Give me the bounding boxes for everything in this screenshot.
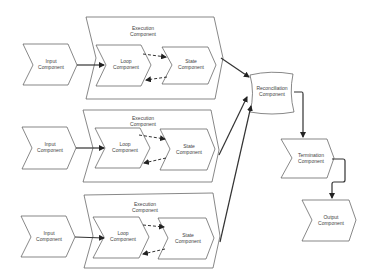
termination-to-output-arrow	[332, 159, 345, 198]
svg-text:Component: Component	[110, 236, 136, 242]
architecture-diagram: Input Component Execution Component Loop…	[0, 0, 371, 280]
svg-text:Component: Component	[38, 64, 64, 70]
reconciliation-component: Reconciliation Component	[250, 72, 294, 114]
pipeline-1: Input Component Execution Component Loop…	[23, 17, 223, 99]
execution-3-to-reconciliation-arrow	[220, 106, 251, 242]
svg-text:Component: Component	[132, 207, 158, 213]
svg-text:Component: Component	[176, 149, 202, 155]
input-component-1: Input Component	[23, 44, 77, 85]
execution-2-to-reconciliation-arrow	[219, 97, 247, 155]
termination-component: Termination Component	[281, 139, 334, 178]
input-component-2: Input Component	[22, 127, 76, 169]
svg-text:Component: Component	[130, 121, 156, 127]
svg-text:Component: Component	[112, 147, 138, 153]
svg-text:Component: Component	[130, 31, 156, 37]
pipeline-2: Input Component Execution Component Loop…	[22, 110, 219, 182]
svg-text:Component: Component	[318, 220, 344, 226]
svg-text:Component: Component	[178, 64, 204, 70]
input-component-3: Input Component	[21, 216, 75, 257]
execution-1-to-reconciliation-arrow	[221, 58, 249, 77]
pipeline-3: Input Component Execution Component Loop…	[21, 193, 220, 268]
svg-text:Component: Component	[113, 64, 139, 70]
svg-text:Component: Component	[298, 158, 324, 164]
output-component: Output Component	[302, 200, 356, 241]
reconciliation-to-termination-arrow	[294, 92, 303, 137]
svg-text:Component: Component	[175, 238, 201, 244]
svg-text:Component: Component	[259, 91, 285, 97]
svg-text:Component: Component	[36, 236, 62, 242]
svg-text:Component: Component	[37, 147, 63, 153]
